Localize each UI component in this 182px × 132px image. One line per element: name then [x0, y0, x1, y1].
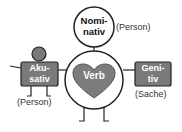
akkusativ-line2: sativ — [21, 74, 58, 85]
nominativ-line2: nativ — [74, 26, 114, 37]
akkusativ-head — [32, 47, 46, 61]
akkusativ-label: Aku- sativ — [21, 63, 58, 85]
nominativ-label: Nomi- nativ — [74, 15, 114, 37]
verb-leg-left — [79, 108, 84, 121]
akkusativ-leg-right — [47, 86, 51, 96]
nominativ-note: (Person) — [116, 22, 151, 32]
genitiv-label: Geni- tiv — [135, 63, 171, 85]
verb-leg-right — [104, 108, 109, 121]
akkusativ-line1: Aku- — [21, 63, 58, 74]
akkusativ-leg-left — [27, 86, 31, 96]
akkusativ-note: (Person) — [17, 97, 52, 107]
nominativ-line1: Nomi- — [74, 15, 114, 26]
genitiv-note: (Sache) — [135, 89, 167, 99]
akkusativ-arm — [10, 66, 21, 68]
genitiv-line1: Geni- — [135, 63, 171, 74]
verb-label: Verb — [74, 70, 114, 81]
genitiv-line2: tiv — [135, 74, 171, 85]
